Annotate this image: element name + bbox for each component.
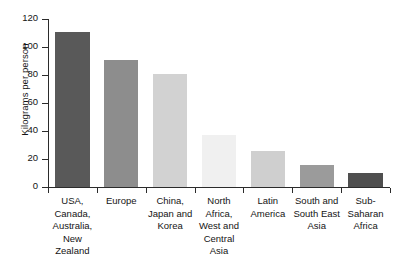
bar — [348, 173, 382, 187]
x-axis-tick-mark — [243, 188, 244, 193]
x-axis-label-line: Australia, — [48, 220, 97, 233]
x-axis-label-line: Africa, — [195, 208, 244, 221]
x-axis-category-label: China,Japan andKorea — [146, 195, 195, 233]
x-axis-label-line: Saharan — [341, 208, 390, 221]
x-axis-label-line: Canada, — [48, 208, 97, 221]
bar-chart: Kilograms per person 020406080100120 USA… — [0, 0, 399, 267]
x-axis-tick-mark — [390, 188, 391, 193]
x-axis-label-line: West and — [195, 220, 244, 233]
y-axis-tick-label: 100 — [0, 40, 38, 51]
x-axis-label-line: Latin — [243, 195, 292, 208]
x-axis-label-line: South and — [292, 195, 341, 208]
x-axis-tick-mark — [48, 188, 49, 193]
x-axis-category-label: NorthAfrica,West andCentralAsia — [195, 195, 244, 258]
x-axis-line — [48, 187, 390, 188]
bar — [55, 32, 89, 187]
x-axis-label-line: North — [195, 195, 244, 208]
x-axis-tick-mark — [146, 188, 147, 193]
x-axis-category-label: South andSouth EastAsia — [292, 195, 341, 233]
x-axis-label-line: Zealand — [48, 245, 97, 258]
y-axis-tick-label: 0 — [0, 180, 38, 191]
x-axis-category-label: USA,Canada,Australia,NewZealand — [48, 195, 97, 258]
bar — [153, 74, 187, 187]
y-axis-tick-label: 20 — [0, 152, 38, 163]
x-axis-label-line: South East — [292, 208, 341, 221]
x-axis-label-line: China, — [146, 195, 195, 208]
bar — [202, 135, 236, 187]
y-axis-tick-label: 60 — [0, 96, 38, 107]
bar — [300, 165, 334, 187]
x-axis-category-label: LatinAmerica — [243, 195, 292, 220]
x-axis-label-line: Europe — [97, 195, 146, 208]
x-axis-label-line: Korea — [146, 220, 195, 233]
x-axis-label-line: USA, — [48, 195, 97, 208]
x-axis-label-line: Central — [195, 233, 244, 246]
x-axis-labels: USA,Canada,Australia,NewZealandEuropeChi… — [48, 195, 390, 267]
x-axis-label-line: Japan and — [146, 208, 195, 221]
x-axis-tick-mark — [341, 188, 342, 193]
x-axis-label-line: Asia — [195, 245, 244, 258]
y-axis-tick-label: 40 — [0, 124, 38, 135]
x-axis-label-line: New — [48, 233, 97, 246]
y-axis-tick-label: 80 — [0, 68, 38, 79]
y-axis-tick-label: 120 — [0, 12, 38, 23]
x-axis-label-line: Africa — [341, 220, 390, 233]
x-axis-tick-mark — [97, 188, 98, 193]
x-axis-tick-mark — [292, 188, 293, 193]
x-axis-label-line: Sub- — [341, 195, 390, 208]
x-axis-label-line: Asia — [292, 220, 341, 233]
bar — [104, 60, 138, 187]
bars-container — [48, 19, 390, 187]
bar — [251, 151, 285, 187]
x-axis-category-label: Sub-SaharanAfrica — [341, 195, 390, 233]
x-axis-label-line: America — [243, 208, 292, 221]
x-axis-category-label: Europe — [97, 195, 146, 208]
x-axis-tick-mark — [195, 188, 196, 193]
